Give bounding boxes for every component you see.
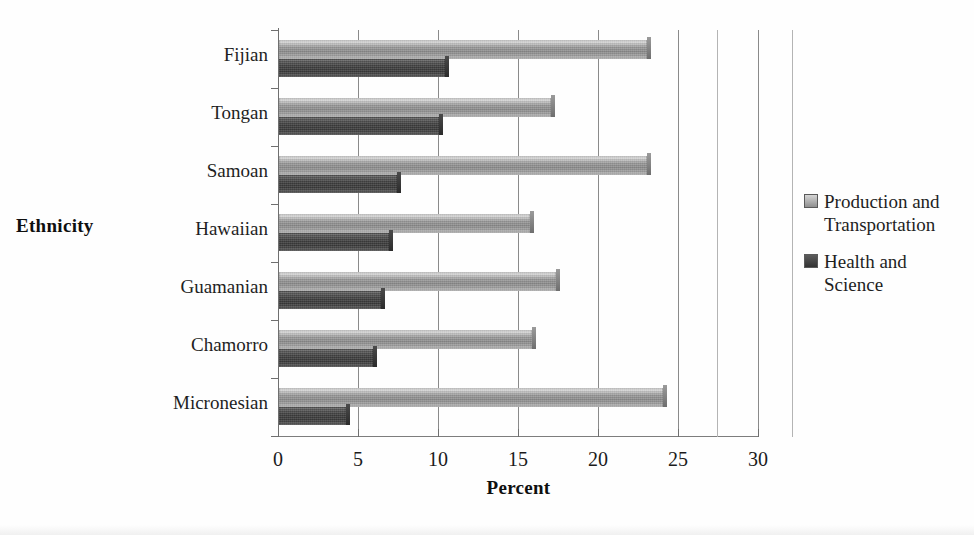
y-tick bbox=[271, 30, 279, 31]
x-tick-30 bbox=[758, 429, 759, 437]
category-label-chamorro: Chamorro bbox=[191, 335, 268, 354]
legend-label-line2: Science bbox=[824, 274, 883, 295]
x-tick-0 bbox=[278, 429, 279, 437]
x-tick-label: 30 bbox=[728, 448, 788, 471]
bar-production-transportation-hawaiian[interactable] bbox=[279, 214, 530, 233]
bar-health-science-guamanian[interactable] bbox=[279, 291, 381, 309]
x-tick-5 bbox=[358, 429, 359, 437]
y-tick bbox=[271, 146, 279, 147]
x-tick-label: 20 bbox=[568, 448, 628, 471]
bar-group-chamorro bbox=[279, 330, 759, 370]
bar-group-tongan bbox=[279, 98, 759, 138]
legend-divider-left bbox=[717, 30, 718, 437]
bar-chart: 0 5 10 15 20 25 30 Fijian Tongan Samoan … bbox=[0, 0, 974, 535]
y-tick bbox=[271, 378, 279, 379]
y-tick bbox=[271, 88, 279, 89]
legend-swatch-icon bbox=[804, 194, 818, 208]
x-tick-20 bbox=[598, 429, 599, 437]
y-tick bbox=[271, 320, 279, 321]
y-tick bbox=[271, 262, 279, 263]
bar-group-guamanian bbox=[279, 272, 759, 312]
y-axis-title: Ethnicity bbox=[16, 215, 94, 237]
bar-production-transportation-tongan[interactable] bbox=[279, 98, 551, 117]
legend-swatch-icon bbox=[804, 254, 818, 268]
legend-label-line1: Production and bbox=[824, 191, 940, 212]
bar-group-hawaiian bbox=[279, 214, 759, 254]
legend-item-health-science[interactable]: Health and Science bbox=[804, 250, 974, 296]
bar-group-samoan bbox=[279, 156, 759, 196]
bar-health-science-micronesian[interactable] bbox=[279, 407, 346, 425]
bar-health-science-fijian[interactable] bbox=[279, 59, 445, 77]
bar-production-transportation-chamorro[interactable] bbox=[279, 330, 532, 349]
x-tick-label: 5 bbox=[328, 448, 388, 471]
x-tick-25 bbox=[678, 429, 679, 437]
category-label-micronesian: Micronesian bbox=[173, 393, 268, 412]
x-tick-label: 15 bbox=[488, 448, 548, 471]
x-tick-15 bbox=[518, 429, 519, 437]
legend-label-line1: Health and bbox=[824, 251, 907, 272]
category-label-fijian: Fijian bbox=[224, 45, 268, 64]
bar-production-transportation-micronesian[interactable] bbox=[279, 388, 663, 407]
bar-group-micronesian bbox=[279, 388, 759, 428]
category-label-hawaiian: Hawaiian bbox=[195, 219, 268, 238]
category-label-samoan: Samoan bbox=[207, 161, 268, 180]
bar-health-science-tongan[interactable] bbox=[279, 117, 439, 135]
bar-health-science-chamorro[interactable] bbox=[279, 349, 373, 367]
x-tick-10 bbox=[438, 429, 439, 437]
legend-divider-right bbox=[792, 30, 793, 437]
bar-production-transportation-guamanian[interactable] bbox=[279, 272, 556, 291]
legend-item-production-transportation[interactable]: Production and Transportation bbox=[804, 190, 974, 236]
x-tick-label: 0 bbox=[248, 448, 308, 471]
bar-health-science-hawaiian[interactable] bbox=[279, 233, 389, 251]
legend: Production and Transportation Health and… bbox=[804, 190, 974, 310]
bar-production-transportation-samoan[interactable] bbox=[279, 156, 647, 175]
scan-edge-shadow bbox=[0, 525, 974, 535]
category-label-guamanian: Guamanian bbox=[180, 277, 268, 296]
category-label-tongan: Tongan bbox=[211, 103, 268, 122]
y-tick bbox=[271, 204, 279, 205]
bar-production-transportation-fijian[interactable] bbox=[279, 40, 647, 59]
x-tick-label: 25 bbox=[648, 448, 708, 471]
x-axis-title: Percent bbox=[278, 477, 759, 499]
x-tick-label: 10 bbox=[408, 448, 468, 471]
bar-health-science-samoan[interactable] bbox=[279, 175, 397, 193]
legend-label-line2: Transportation bbox=[824, 214, 935, 235]
bar-group-fijian bbox=[279, 40, 759, 80]
